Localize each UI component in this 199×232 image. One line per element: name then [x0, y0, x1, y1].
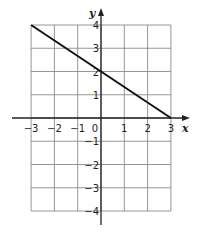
y-tick-label: 1	[93, 90, 99, 101]
y-tick-label: −2	[84, 160, 99, 171]
x-axis-label: x	[181, 122, 189, 135]
y-tick-label: −1	[84, 136, 99, 147]
axes	[12, 8, 190, 225]
x-tick-label: 1	[121, 123, 127, 134]
y-axis-arrow-icon	[98, 8, 104, 16]
x-tick-label: −1	[70, 123, 85, 134]
x-axis-arrow-icon	[182, 115, 190, 121]
x-tick-label: 2	[144, 123, 150, 134]
x-tick-label: 3	[168, 123, 174, 134]
coordinate-plane: −3−2−10123−4−3−2−11234 x y	[0, 0, 199, 232]
y-tick-label: −4	[84, 206, 99, 217]
y-tick-label: 3	[93, 43, 99, 54]
y-tick-label: −3	[84, 183, 99, 194]
y-tick-label: 4	[93, 20, 99, 31]
y-axis-label: y	[88, 7, 97, 20]
y-tick-label: 2	[93, 67, 99, 78]
x-tick-label: 0	[92, 123, 98, 134]
x-tick-label: −3	[24, 123, 39, 134]
x-tick-label: −2	[47, 123, 62, 134]
